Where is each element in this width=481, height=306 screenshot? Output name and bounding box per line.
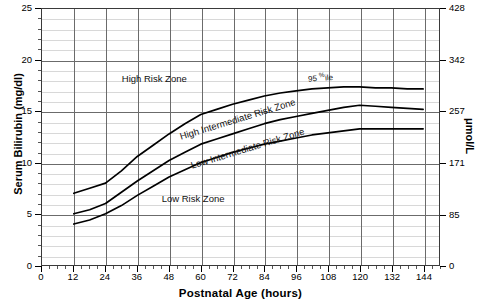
- y-tick-major-left: [35, 163, 41, 164]
- annotation-low-risk-zone: Low Risk Zone: [162, 193, 225, 204]
- y-tick-major-right: [440, 215, 446, 216]
- y-tick-major-right: [440, 8, 446, 9]
- y-tick-label-left: 0: [4, 260, 32, 271]
- x-tick-minor: [352, 266, 353, 269]
- x-tick-minor: [193, 266, 194, 269]
- y-tick-minor-left: [38, 49, 41, 50]
- y-tick-minor-left: [38, 122, 41, 123]
- x-tick-minor: [288, 266, 289, 269]
- plot-area: High Risk Zone High Intermediate Risk Zo…: [41, 8, 440, 266]
- x-tick-minor: [161, 266, 162, 269]
- annotation-high-risk-zone: High Risk Zone: [122, 73, 187, 84]
- x-tick-minor: [432, 266, 433, 269]
- curve-95th-percentile: [74, 87, 423, 193]
- y-tick-minor-left: [38, 70, 41, 71]
- x-tick-minor: [384, 266, 385, 269]
- y-tick-minor-left: [38, 183, 41, 184]
- x-tick-label: 144: [404, 271, 444, 282]
- x-tick-minor: [336, 266, 337, 269]
- y-tick-label-right: 428: [449, 2, 481, 13]
- x-axis-title: Postnatal Age (hours): [0, 287, 481, 299]
- x-tick-minor: [97, 266, 98, 269]
- y-tick-major-left: [35, 60, 41, 61]
- y-tick-minor-left: [38, 204, 41, 205]
- x-tick-minor: [113, 266, 114, 269]
- y-tick-major-right: [440, 111, 446, 112]
- y-tick-major-left: [35, 266, 41, 267]
- y-tick-minor-left: [38, 173, 41, 174]
- x-tick-minor: [344, 266, 345, 269]
- x-tick-minor: [65, 266, 66, 269]
- y-tick-major-right: [440, 163, 446, 164]
- y-tick-major-right: [440, 266, 446, 267]
- x-tick-minor: [257, 266, 258, 269]
- x-tick-minor: [400, 266, 401, 269]
- y-tick-minor-left: [38, 91, 41, 92]
- y-tick-label-left: 25: [4, 2, 32, 13]
- y-tick-minor-left: [38, 29, 41, 30]
- y-tick-minor-left: [38, 18, 41, 19]
- x-tick-minor: [312, 266, 313, 269]
- x-tick-minor: [89, 266, 90, 269]
- x-tick-minor: [145, 266, 146, 269]
- x-tick-minor: [272, 266, 273, 269]
- y-tick-major-left: [35, 214, 41, 215]
- percentile-ile: ile: [325, 73, 334, 83]
- x-tick-minor: [280, 266, 281, 269]
- percentile-number: 95: [308, 74, 320, 84]
- percentile-curves: [42, 9, 439, 265]
- x-tick-minor: [241, 266, 242, 269]
- x-tick-minor: [217, 266, 218, 269]
- y-tick-label-right: 0: [449, 260, 481, 271]
- y-axis-title-right: μmol/L: [464, 46, 476, 226]
- y-tick-minor-left: [38, 153, 41, 154]
- y-tick-minor-left: [38, 256, 41, 257]
- x-tick-minor: [129, 266, 130, 269]
- x-tick-minor: [320, 266, 321, 269]
- y-tick-minor-left: [38, 194, 41, 195]
- y-tick-minor-left: [38, 225, 41, 226]
- y-tick-minor-left: [38, 245, 41, 246]
- y-tick-minor-left: [38, 39, 41, 40]
- y-tick-major-right: [440, 60, 446, 61]
- annotation-95-percentile: 95 %ile: [308, 70, 334, 83]
- y-tick-major-left: [35, 8, 41, 9]
- x-tick-minor: [376, 266, 377, 269]
- x-tick-minor: [57, 266, 58, 269]
- y-tick-minor-left: [38, 101, 41, 102]
- y-tick-minor-left: [38, 80, 41, 81]
- x-tick-minor: [408, 266, 409, 269]
- x-tick-minor: [249, 266, 250, 269]
- x-tick-minor: [81, 266, 82, 269]
- x-tick-minor: [49, 266, 50, 269]
- x-tick-minor: [304, 266, 305, 269]
- y-axis-title-left: Serum Bilirubin (mg/dl): [12, 24, 24, 244]
- curve-75th-percentile: [74, 105, 423, 214]
- y-tick-major-left: [35, 111, 41, 112]
- y-tick-minor-left: [38, 132, 41, 133]
- x-tick-minor: [185, 266, 186, 269]
- x-tick-minor: [368, 266, 369, 269]
- x-tick-minor: [416, 266, 417, 269]
- y-tick-minor-left: [38, 142, 41, 143]
- x-tick-minor: [225, 266, 226, 269]
- x-tick-minor: [209, 266, 210, 269]
- y-tick-minor-left: [38, 235, 41, 236]
- bilirubin-nomogram-chart: High Risk Zone High Intermediate Risk Zo…: [0, 0, 481, 306]
- x-tick-minor: [153, 266, 154, 269]
- x-tick-minor: [121, 266, 122, 269]
- x-tick-minor: [177, 266, 178, 269]
